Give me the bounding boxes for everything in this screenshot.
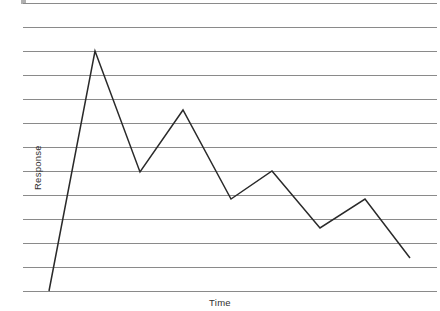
line-chart-figure: Response Time <box>0 0 440 311</box>
plot-area <box>0 0 440 311</box>
x-axis-label: Time <box>0 297 440 308</box>
y-axis-label: Response <box>32 145 43 190</box>
gridline-group <box>23 3 437 291</box>
